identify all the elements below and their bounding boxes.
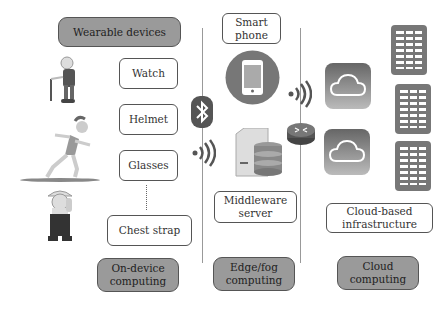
ellipsis-dots bbox=[146, 185, 148, 210]
cloud-infrastructure-box: Cloud-based infrastructure bbox=[326, 203, 433, 233]
router-icon bbox=[286, 122, 316, 146]
device-helmet: Helmet bbox=[119, 104, 178, 135]
server-rack-icon bbox=[395, 141, 431, 191]
edge-fog-computing-label: Edge/fog computing bbox=[213, 257, 295, 291]
cloud-icon bbox=[324, 129, 370, 175]
wifi-icon bbox=[288, 80, 312, 108]
server-rack-icon bbox=[391, 25, 427, 75]
smartphone-label: Smart phone bbox=[235, 16, 268, 42]
worker-icon bbox=[40, 188, 80, 243]
wifi-icon bbox=[192, 139, 216, 167]
on-device-computing-label: On-device computing bbox=[97, 258, 179, 292]
server-rack-icon bbox=[395, 84, 431, 134]
device-watch: Watch bbox=[119, 58, 178, 89]
device-glasses: Glasses bbox=[119, 150, 178, 181]
device-chest-strap-label: Chest strap bbox=[119, 224, 181, 237]
wearable-devices-header: Wearable devices bbox=[58, 17, 181, 47]
device-watch-label: Watch bbox=[132, 67, 165, 80]
bluetooth-icon bbox=[191, 96, 213, 128]
smartphone-icon bbox=[225, 50, 280, 105]
device-glasses-label: Glasses bbox=[128, 159, 168, 172]
edge-fog-computing-text: Edge/fog computing bbox=[226, 261, 283, 287]
wearable-devices-label: Wearable devices bbox=[73, 26, 166, 39]
middleware-server-box: Middleware server bbox=[214, 191, 297, 223]
device-chest-strap: Chest strap bbox=[107, 215, 192, 246]
database-server-icon bbox=[234, 128, 284, 180]
cloud-infrastructure-label: Cloud-based infrastructure bbox=[342, 205, 417, 231]
cloud-icon bbox=[325, 63, 371, 109]
middleware-server-label: Middleware server bbox=[224, 194, 288, 220]
cloud-computing-label: Cloud computing bbox=[337, 256, 419, 290]
on-device-computing-text: On-device computing bbox=[110, 262, 167, 288]
elderly-person-icon bbox=[45, 55, 85, 105]
cloud-computing-text: Cloud computing bbox=[350, 260, 407, 286]
runner-icon bbox=[15, 115, 100, 183]
device-helmet-label: Helmet bbox=[129, 113, 168, 126]
smartphone-box: Smart phone bbox=[222, 13, 281, 44]
